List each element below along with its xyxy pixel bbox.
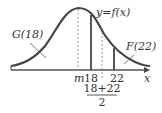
normal-curve-diagram: y=f(x) G(18) F(22) m 18 22 x 18+22 2 bbox=[0, 0, 162, 113]
g18-pointer bbox=[30, 43, 46, 58]
midpoint-numerator: 18+22 bbox=[83, 82, 120, 95]
curve-label: y=f(x) bbox=[95, 6, 130, 19]
f22-label: F(22) bbox=[125, 40, 156, 53]
midpoint-denominator: 2 bbox=[99, 96, 106, 109]
axis-label-x: x bbox=[144, 72, 151, 85]
g18-label: G(18) bbox=[12, 28, 43, 41]
